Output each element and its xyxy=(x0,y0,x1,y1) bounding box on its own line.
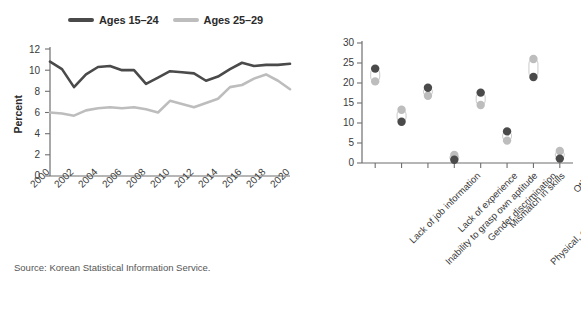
dumbbell-dot-2018 xyxy=(424,92,432,100)
line-series-ages-15-24 xyxy=(50,62,290,87)
dumbbell-dot-2018 xyxy=(529,55,537,63)
dumbbell-x-tickmarks xyxy=(375,163,560,168)
dumbbell-dot-2007 xyxy=(397,118,405,126)
dumbbell-dot-2018 xyxy=(503,136,511,144)
line-series-ages-25-29 xyxy=(50,74,290,115)
dumbbell-chart-panel: 2007 2018 Percent of respondents 30 25 2… xyxy=(300,0,581,300)
source-note: Source: Korean Statistical Information S… xyxy=(14,262,210,273)
dumbbell-dot-2007 xyxy=(503,127,511,135)
dumbbell-dot-2018 xyxy=(556,147,564,155)
dumbbell-dot-2007 xyxy=(556,154,564,162)
dumbbell-dot-2007 xyxy=(450,156,458,164)
dumbbell-dot-2007 xyxy=(529,73,537,81)
figure-container: Ages 15–24 Ages 25–29 Percent 12 10 8 6 … xyxy=(0,0,581,326)
dumbbell-chart-plot xyxy=(300,0,581,200)
dumbbell-y-tickmarks xyxy=(357,43,362,163)
dumbbell-dot-2007 xyxy=(476,88,484,96)
dumbbell-dot-2018 xyxy=(397,106,405,114)
dumbbell-dot-2018 xyxy=(476,101,484,109)
line-chart-panel: Ages 15–24 Ages 25–29 Percent 12 10 8 6 … xyxy=(0,0,300,300)
dumbbell-marks-group xyxy=(371,55,565,164)
dumbbell-dot-2007 xyxy=(424,84,432,92)
dumbbell-dot-2007 xyxy=(371,64,379,72)
dumbbell-dot-2018 xyxy=(371,77,379,85)
